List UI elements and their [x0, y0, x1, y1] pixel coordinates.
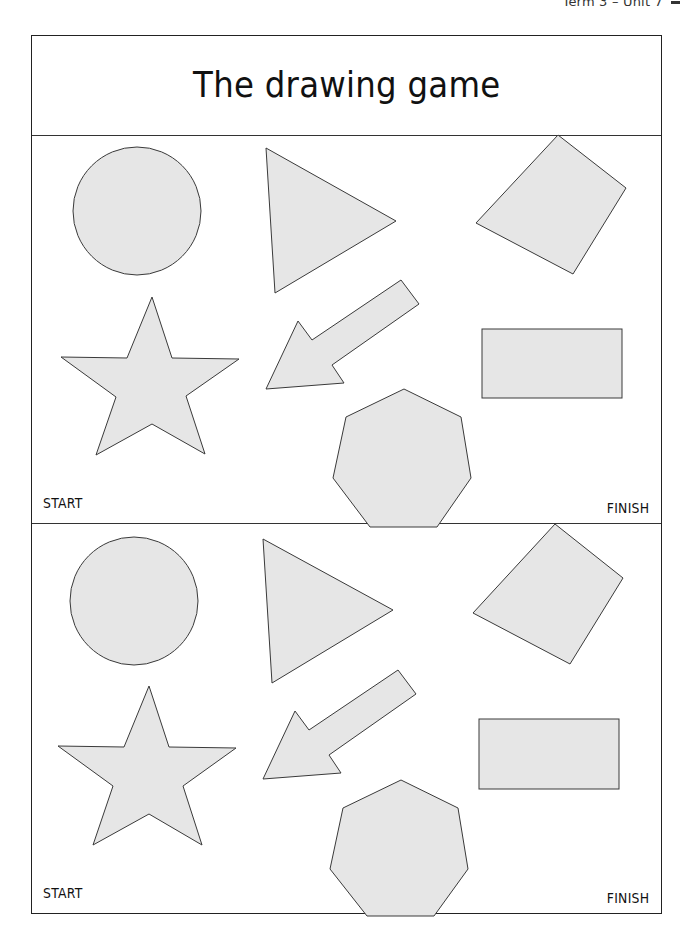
shapes-canvas-2: [32, 524, 663, 913]
square-shape: [473, 524, 623, 664]
page-title: The drawing game: [193, 64, 500, 105]
arrow-shape: [266, 280, 419, 389]
heptagon-shape: [333, 389, 471, 527]
title-band: The drawing game: [32, 36, 661, 136]
circle-shape: [70, 537, 198, 665]
game-panel-2: START FINISH: [32, 524, 661, 913]
worksheet-frame: The drawing game START FINISH START FINI…: [31, 35, 662, 914]
game-panel-1: START FINISH: [32, 135, 661, 524]
start-label: START: [43, 885, 83, 901]
page-marker: [671, 1, 680, 4]
running-head-text: Term 3 – Unit 7: [562, 0, 663, 9]
start-label: START: [43, 495, 83, 511]
star-shape: [58, 686, 236, 845]
heptagon-shape: [330, 780, 468, 916]
shapes-canvas-1: [32, 135, 663, 523]
finish-label: FINISH: [606, 500, 649, 516]
square-shape: [476, 135, 626, 274]
rectangle-shape: [479, 719, 619, 789]
triangle-shape: [266, 148, 396, 293]
star-shape: [61, 297, 239, 455]
triangle-shape: [263, 539, 393, 683]
rectangle-shape: [482, 329, 622, 398]
circle-shape: [73, 147, 201, 275]
finish-label: FINISH: [606, 890, 649, 906]
arrow-shape: [263, 670, 416, 779]
running-head: Term 3 – Unit 7: [562, 0, 680, 9]
